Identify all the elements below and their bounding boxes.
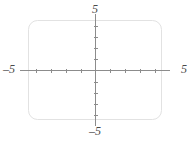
x-axis-min-label: –5 bbox=[3, 63, 15, 75]
y-axis-min-label: –5 bbox=[0, 125, 190, 137]
y-axis-max-label: 5 bbox=[0, 3, 190, 15]
coordinate-plane-figure: 5 –5 –5 5 bbox=[0, 0, 190, 143]
x-axis-max-label: 5 bbox=[181, 63, 187, 75]
coordinate-plane-svg bbox=[0, 0, 190, 143]
